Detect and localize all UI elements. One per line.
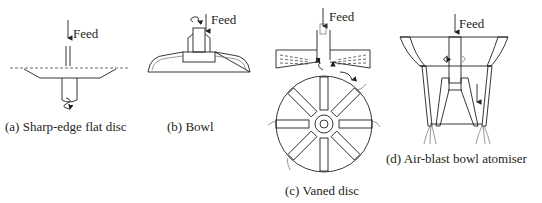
caption-c: (c) Vaned disc — [285, 183, 359, 198]
feed-tube — [317, 24, 330, 60]
panel-a-sharp-edge-flat-disc: Feed (a) Sharp-edge flat disc — [5, 20, 128, 134]
panel-b-bowl: Feed (b) Bowl — [148, 12, 250, 134]
caption-b: (b) Bowl — [167, 119, 214, 134]
caption-a: (a) Sharp-edge flat disc — [5, 119, 127, 134]
vaned-disc-top-view — [268, 76, 380, 172]
inner-bowl — [436, 78, 478, 126]
feed-shaft — [449, 37, 461, 83]
feed-label: Feed — [459, 16, 485, 31]
panel-d-air-blast-bowl-atomiser: Feed (d) Air-blast bowl atomiser — [386, 14, 528, 166]
feed-label: Feed — [329, 9, 355, 24]
rotation-arrow-icon — [319, 63, 323, 70]
atomiser-diagram: Feed (a) Sharp-edge flat disc Feed (b) B… — [0, 0, 542, 203]
vaned-disc-side-view — [276, 50, 370, 68]
feed-label: Feed — [73, 26, 99, 41]
flat-disc — [24, 69, 116, 78]
bowl-hub — [183, 28, 215, 62]
rotation-arrow-icon — [191, 17, 199, 22]
shaft — [62, 78, 77, 102]
panel-c-vaned-disc: Feed — [268, 8, 380, 198]
rotation-arrow-icon — [64, 98, 70, 109]
outer-housing — [400, 37, 508, 126]
feed-label: Feed — [211, 12, 237, 27]
caption-d: (d) Air-blast bowl atomiser — [386, 151, 528, 166]
spray-plume — [424, 126, 490, 144]
spray-direction-arrow-icon — [340, 72, 352, 80]
feed-pipe — [66, 46, 70, 66]
rotation-arrow-icon — [444, 56, 448, 62]
vanes — [276, 77, 372, 171]
